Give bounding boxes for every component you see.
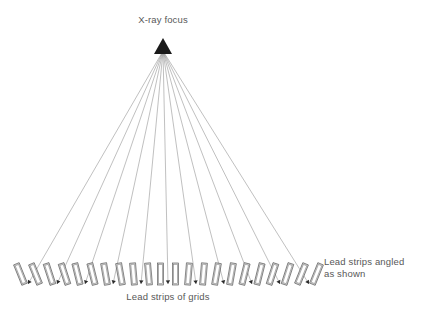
xray-focus-label: X-ray focus (138, 14, 188, 25)
lead-strip-inner (159, 264, 163, 283)
lead-strip-inner (174, 264, 178, 283)
lead-strips-angled-label-line1: Lead strips angled (324, 256, 404, 267)
xray-grid-diagram: X-ray focus Lead strips of grids Lead st… (0, 0, 423, 313)
diagram-canvas: X-ray focus Lead strips of grids Lead st… (0, 0, 423, 313)
lead-strips-of-grids-label: Lead strips of grids (126, 291, 209, 302)
lead-strips-angled-label-line2: as shown (324, 268, 365, 279)
